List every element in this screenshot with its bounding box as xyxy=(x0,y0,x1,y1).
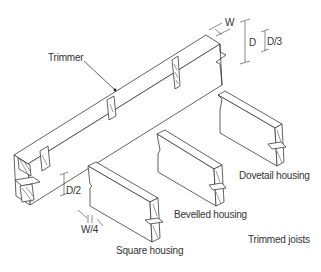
square-housing-label: Square housing xyxy=(116,246,183,256)
trimmer-label: Trimmer xyxy=(48,53,83,63)
depth-half-dimension-label: D/2 xyxy=(66,186,81,196)
depth-third-dimension-label: D/3 xyxy=(267,37,282,47)
depth-dimension-label: D xyxy=(249,38,256,48)
width-dimension-label: W xyxy=(225,18,234,28)
bevelled-housing-joist xyxy=(157,130,226,206)
dovetail-housing-label: Dovetail housing xyxy=(239,171,310,181)
trimmed-joists-diagram: Trimmer W D D/3 D/2 W/4 Square housing B… xyxy=(0,0,321,272)
square-housing-joist xyxy=(88,162,163,242)
width-quarter-dimension-label: W/4 xyxy=(81,225,98,235)
bevelled-housing-label: Bevelled housing xyxy=(174,210,247,220)
dovetail-housing-joist xyxy=(218,91,286,166)
trimmed-joists-caption: Trimmed joists xyxy=(248,235,310,245)
